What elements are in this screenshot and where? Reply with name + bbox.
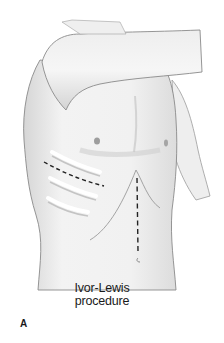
caption-line-2: procedure <box>72 295 132 308</box>
procedure-caption: Ivor-Lewis procedure <box>72 282 132 308</box>
left-nipple <box>164 140 168 147</box>
panel-label: A <box>20 318 27 329</box>
right-nipple <box>94 137 100 144</box>
ivor-lewis-illustration: Ivor-Lewis procedure A <box>0 0 224 343</box>
left-arm <box>172 80 210 200</box>
abdominal-incision <box>137 178 138 252</box>
upper-arm-back <box>62 20 126 34</box>
torso <box>24 60 177 290</box>
